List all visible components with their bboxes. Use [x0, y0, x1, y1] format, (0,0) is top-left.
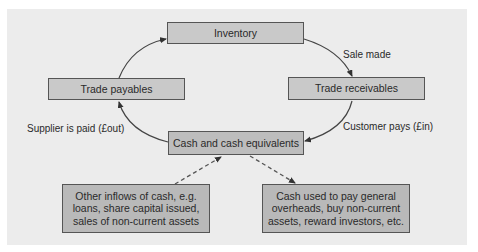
edge-label-supplier-paid: Supplier is paid (£out) — [27, 123, 124, 134]
node-inventory-label: Inventory — [214, 27, 257, 40]
node-inventory: Inventory — [167, 22, 304, 44]
node-trade-payables: Trade payables — [48, 78, 185, 100]
node-trade-payables-label: Trade payables — [81, 83, 153, 96]
node-other-inflows: Other inflows of cash, e.g. loans, share… — [62, 184, 210, 233]
node-cash: Cash and cash equivalents — [168, 131, 304, 155]
dashed-arrow-inflows-to-cash — [175, 157, 221, 184]
arrow-cash-to-payables — [119, 102, 168, 142]
node-other-inflows-label: Other inflows of cash, e.g. loans, share… — [67, 190, 205, 228]
arrow-payables-to-inventory — [119, 39, 166, 78]
edge-label-sale-made: Sale made — [343, 49, 391, 60]
edge-label-customer-pays: Customer pays (£in) — [343, 121, 433, 132]
node-cash-used: Cash used to pay general overheads, buy … — [262, 184, 410, 233]
node-trade-receivables: Trade receivables — [288, 77, 425, 100]
node-cash-used-label: Cash used to pay general overheads, buy … — [267, 190, 405, 228]
node-cash-label: Cash and cash equivalents — [173, 137, 299, 150]
node-trade-receivables-label: Trade receivables — [315, 82, 398, 95]
dashed-arrow-cash-to-used — [250, 156, 295, 183]
